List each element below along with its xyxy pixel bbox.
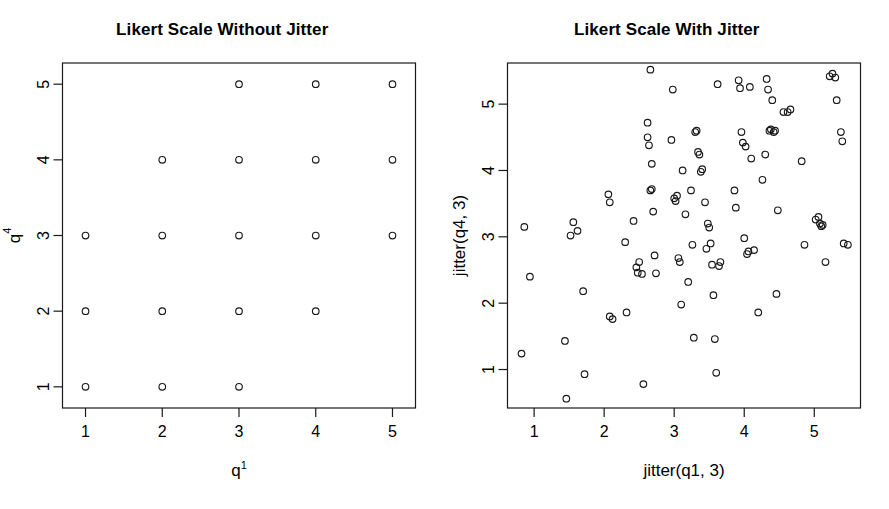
data-point xyxy=(581,371,588,378)
data-point xyxy=(677,301,684,308)
y-axis-title: q4 xyxy=(1,228,24,244)
data-point xyxy=(798,158,805,165)
data-point xyxy=(159,232,166,239)
data-point xyxy=(648,161,655,168)
data-point xyxy=(574,228,581,235)
data-point xyxy=(690,334,697,341)
data-point xyxy=(236,384,243,391)
data-point xyxy=(740,235,747,242)
plot-area-left: 1234512345q1q4 xyxy=(0,0,445,509)
data-point xyxy=(563,395,570,402)
plot-area-right: 1234512345jitter(q1, 3)jitter(q4, 3) xyxy=(445,0,889,509)
data-point xyxy=(687,187,694,194)
data-point xyxy=(630,218,637,225)
data-point xyxy=(647,66,654,73)
data-point xyxy=(844,241,851,248)
data-point xyxy=(768,97,775,104)
data-point xyxy=(736,85,743,92)
data-point xyxy=(693,127,700,134)
data-point xyxy=(746,84,753,91)
panel-with-jitter: Likert Scale With Jitter 1234512345jitte… xyxy=(445,0,889,509)
data-point xyxy=(707,240,714,247)
data-point xyxy=(82,232,89,239)
y-axis-title: jitter(q4, 3) xyxy=(449,195,468,277)
data-point xyxy=(606,199,613,206)
data-point xyxy=(822,259,829,266)
data-point xyxy=(82,384,89,391)
plot-frame xyxy=(507,63,860,408)
data-point xyxy=(764,86,771,93)
data-point xyxy=(711,336,718,343)
data-point xyxy=(518,350,525,357)
data-point xyxy=(704,220,711,227)
data-point xyxy=(159,384,166,391)
y-tick-label: 1 xyxy=(480,365,497,374)
x-axis-title: q1 xyxy=(231,459,247,480)
data-point xyxy=(684,279,691,286)
data-point xyxy=(833,97,840,104)
data-point xyxy=(236,81,243,88)
data-point xyxy=(801,241,808,248)
data-point xyxy=(840,240,847,247)
data-point xyxy=(312,81,319,88)
data-point xyxy=(82,308,89,315)
data-point xyxy=(712,370,719,377)
data-point xyxy=(236,232,243,239)
data-point xyxy=(676,259,683,266)
data-point xyxy=(635,259,642,266)
plot-frame xyxy=(63,63,416,408)
y-tick-label: 3 xyxy=(480,232,497,241)
data-point xyxy=(708,261,715,268)
data-point xyxy=(159,157,166,164)
data-point xyxy=(738,129,745,136)
data-point xyxy=(312,232,319,239)
data-point xyxy=(649,208,656,215)
data-point xyxy=(701,199,708,206)
data-point xyxy=(651,252,658,259)
data-point xyxy=(645,142,652,149)
x-tick-label: 5 xyxy=(809,423,818,440)
data-point xyxy=(605,191,612,198)
y-tick-label: 3 xyxy=(35,231,52,240)
figure-container: Likert Scale Without Jitter 1234512345q1… xyxy=(0,0,889,509)
x-tick-label: 3 xyxy=(669,423,678,440)
data-point xyxy=(773,291,780,298)
panel-without-jitter: Likert Scale Without Jitter 1234512345q1… xyxy=(0,0,445,509)
data-point xyxy=(717,259,724,266)
data-point xyxy=(705,224,712,231)
data-point xyxy=(759,176,766,183)
data-point xyxy=(236,157,243,164)
data-point xyxy=(837,129,844,136)
x-tick-label: 4 xyxy=(739,423,748,440)
data-point xyxy=(652,270,659,277)
data-point xyxy=(689,241,696,248)
data-point xyxy=(638,271,645,278)
x-tick-label: 4 xyxy=(311,423,320,440)
data-point xyxy=(521,224,528,231)
x-tick-label: 5 xyxy=(388,423,397,440)
data-point xyxy=(732,204,739,211)
data-point xyxy=(312,308,319,315)
data-point xyxy=(579,288,586,295)
data-point xyxy=(669,86,676,93)
data-point xyxy=(640,381,647,388)
data-point xyxy=(526,273,533,280)
y-tick-label: 5 xyxy=(35,80,52,89)
y-tick-label: 2 xyxy=(35,307,52,316)
data-point xyxy=(682,211,689,218)
data-point xyxy=(389,232,396,239)
data-point xyxy=(159,308,166,315)
data-point xyxy=(838,138,845,145)
data-point xyxy=(747,155,754,162)
data-point xyxy=(763,76,770,83)
y-tick-label: 5 xyxy=(480,100,497,109)
y-tick-label: 4 xyxy=(480,166,497,175)
data-point xyxy=(761,151,768,158)
data-point xyxy=(389,81,396,88)
x-tick-label: 3 xyxy=(235,423,244,440)
y-tick-label: 1 xyxy=(35,382,52,391)
data-point xyxy=(570,219,577,226)
data-point xyxy=(567,232,574,239)
data-point xyxy=(715,263,722,270)
x-tick-label: 2 xyxy=(599,423,608,440)
